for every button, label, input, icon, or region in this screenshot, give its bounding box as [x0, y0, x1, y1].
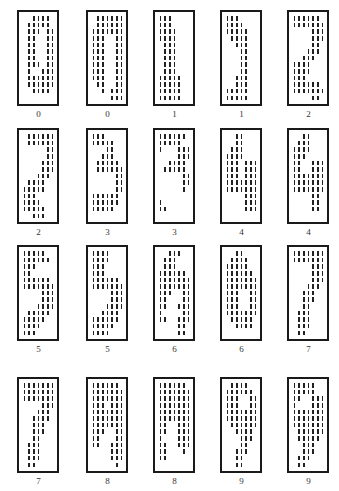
- dash-mark: [174, 278, 176, 283]
- dash-mark: [97, 23, 99, 28]
- dash-mark: [102, 56, 104, 61]
- dash-mark: [231, 416, 233, 421]
- dash-mark: [298, 311, 300, 316]
- dash-mark: [303, 317, 305, 322]
- dash-mark: [183, 423, 185, 428]
- dash-mark: [294, 174, 296, 179]
- dash-mark: [317, 251, 319, 256]
- dash-mark: [245, 29, 247, 34]
- dash-mark: [116, 89, 118, 94]
- dash-mark: [116, 167, 118, 172]
- dash-mark: [255, 278, 257, 283]
- dash-grid: [292, 250, 325, 336]
- dash-mark: [241, 311, 243, 316]
- dash-mark: [102, 258, 104, 263]
- digit-sample: 0: [17, 10, 77, 125]
- dash-mark: [169, 89, 171, 94]
- dash-mark: [121, 396, 123, 401]
- dash-mark: [250, 423, 252, 428]
- dash-mark: [102, 200, 104, 205]
- dash-mark: [183, 161, 185, 166]
- dash-mark: [33, 134, 35, 139]
- dash-mark: [294, 62, 296, 67]
- dash-mark: [255, 174, 257, 179]
- dash-mark: [121, 390, 123, 395]
- dash-mark: [255, 297, 257, 302]
- dash-mark: [250, 194, 252, 199]
- dash-mark: [298, 463, 300, 468]
- dash-mark: [322, 271, 324, 276]
- dash-mark: [174, 82, 176, 87]
- dash-mark: [322, 167, 324, 172]
- dash-mark: [317, 194, 319, 199]
- dash-mark: [111, 147, 113, 152]
- dash-mark: [97, 207, 99, 212]
- dash-grid: [22, 382, 55, 468]
- digit-pattern-box: [287, 10, 329, 106]
- dash-mark: [97, 200, 99, 205]
- dash-mark: [317, 429, 319, 434]
- dash-mark: [241, 49, 243, 54]
- dash-mark: [241, 258, 243, 263]
- dash-mark: [33, 141, 35, 146]
- dash-mark: [107, 284, 109, 289]
- dash-mark: [47, 36, 49, 41]
- dash-mark: [121, 456, 123, 461]
- dash-mark: [188, 423, 190, 428]
- dash-mark: [28, 62, 30, 67]
- dash-mark: [102, 311, 104, 316]
- dash-mark: [308, 16, 310, 21]
- dash-mark: [102, 278, 104, 283]
- dash-grid: [158, 15, 191, 101]
- dash-mark: [303, 291, 305, 296]
- dash-mark: [102, 141, 104, 146]
- dash-mark: [303, 304, 305, 309]
- dash-mark: [250, 180, 252, 185]
- dash-mark: [24, 317, 26, 322]
- dash-mark: [322, 180, 324, 185]
- dash-mark: [116, 410, 118, 415]
- dash-mark: [102, 429, 104, 434]
- dash-mark: [160, 141, 162, 146]
- dash-mark: [231, 187, 233, 192]
- dash-mark: [174, 390, 176, 395]
- dash-mark: [303, 82, 305, 87]
- dash-mark: [121, 89, 123, 94]
- dash-mark: [24, 207, 26, 212]
- dash-mark: [116, 423, 118, 428]
- dash-mark: [317, 89, 319, 94]
- dash-mark: [317, 180, 319, 185]
- dash-mark: [47, 69, 49, 74]
- dash-mark: [47, 410, 49, 415]
- dash-mark: [160, 82, 162, 87]
- dash-mark: [47, 258, 49, 263]
- dash-mark: [169, 36, 171, 41]
- dash-mark: [38, 89, 40, 94]
- digit-sample: 8: [153, 377, 213, 491]
- dash-mark: [241, 154, 243, 159]
- dash-mark: [231, 311, 233, 316]
- dash-mark: [183, 174, 185, 179]
- dash-mark: [312, 56, 314, 61]
- dash-mark: [245, 56, 247, 61]
- dash-mark: [227, 264, 229, 269]
- dash-mark: [160, 390, 162, 395]
- dash-mark: [160, 147, 162, 152]
- dash-mark: [303, 180, 305, 185]
- dash-mark: [236, 463, 238, 468]
- dash-mark: [174, 56, 176, 61]
- dash-mark: [116, 29, 118, 34]
- dash-mark: [308, 304, 310, 309]
- dash-mark: [102, 167, 104, 172]
- digit-sample: 7: [287, 245, 339, 360]
- dash-mark: [121, 187, 123, 192]
- dash-mark: [111, 207, 113, 212]
- dash-mark: [24, 390, 26, 395]
- dash-mark: [38, 410, 40, 415]
- dash-mark: [93, 271, 95, 276]
- dash-mark: [93, 62, 95, 67]
- dash-mark: [107, 304, 109, 309]
- dash-mark: [174, 161, 176, 166]
- dash-mark: [42, 423, 44, 428]
- dash-mark: [97, 29, 99, 34]
